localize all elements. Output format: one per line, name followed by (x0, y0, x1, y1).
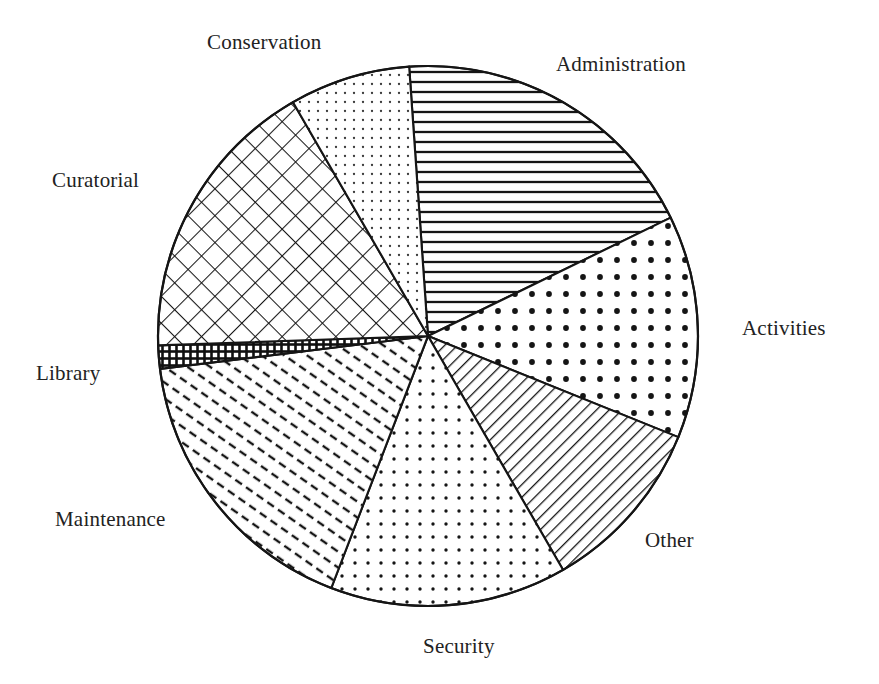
slice-label-maintenance: Maintenance (55, 507, 166, 532)
pie-chart-figure: Conservation Administration Curatorial A… (0, 0, 879, 684)
pie-chart-canvas (0, 0, 879, 684)
slice-label-security: Security (423, 634, 495, 659)
slice-label-curatorial: Curatorial (52, 168, 139, 193)
slice-label-activities: Activities (742, 316, 826, 341)
pie-slices-group (158, 66, 698, 606)
slice-label-administration: Administration (556, 52, 686, 77)
slice-label-conservation: Conservation (207, 30, 321, 55)
slice-label-other: Other (645, 528, 694, 553)
slice-label-library: Library (36, 361, 100, 386)
